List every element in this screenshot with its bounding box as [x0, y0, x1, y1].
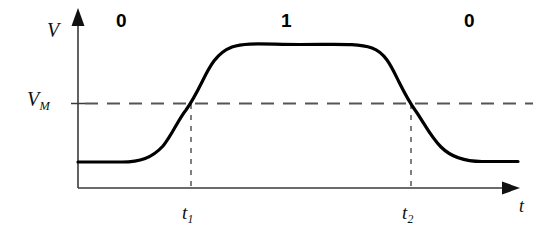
logic-level-label-left: 0 [116, 11, 127, 30]
t2-tick-label: t2 [402, 203, 413, 222]
threshold-label: VM [27, 89, 50, 109]
plot-canvas [0, 0, 542, 234]
x-axis-arrowhead-icon [502, 182, 520, 195]
t2-tick-label-sub: 2 [407, 213, 413, 226]
threshold-label-main: V [27, 88, 39, 110]
logic-level-label-right: 0 [464, 11, 475, 30]
y-axis-arrowhead-icon [72, 8, 85, 26]
logic-level-label-middle: 1 [281, 11, 292, 30]
voltage-curve [78, 44, 518, 162]
y-axis-label: V [47, 20, 59, 40]
voltage-waveform-figure: V VM t t1 t2 0 1 0 [0, 0, 542, 234]
t1-tick-label: t1 [182, 203, 193, 222]
threshold-label-sub: M [39, 99, 49, 113]
x-axis-label: t [519, 197, 524, 215]
x-axis [78, 182, 520, 195]
t1-tick-label-sub: 1 [187, 213, 193, 226]
